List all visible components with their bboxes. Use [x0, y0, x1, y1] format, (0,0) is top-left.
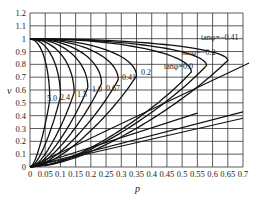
- curve-label-tan-neg-0-41: tanφ=−0.41: [201, 33, 238, 42]
- y-tick-label: 0.7: [15, 72, 26, 82]
- curve-label-tan-neg-0-2: tanφ=−0.2: [182, 48, 215, 57]
- y-tick-label: 1.1: [15, 21, 26, 31]
- x-tick-label: 0.45: [159, 169, 174, 179]
- x-tick-label: 0.7: [238, 169, 249, 179]
- x-tick-label: 0.1: [55, 169, 66, 179]
- curve-label-0-2: 0.2: [141, 68, 151, 77]
- x-tick-label: 0.25: [99, 169, 114, 179]
- pv-curve-chart: 00.10.20.30.40.50.60.70.80.911.11.2 00.0…: [0, 0, 258, 197]
- x-axis-label: p: [134, 183, 140, 194]
- y-tick-label: 0.5: [15, 98, 26, 108]
- y-tick-label: 0.2: [15, 136, 26, 146]
- y-tick-label: 0.4: [15, 111, 26, 121]
- x-tick-label: 0.15: [68, 169, 83, 179]
- x-tick-label: 0.3: [116, 169, 127, 179]
- locus-line: [30, 63, 249, 167]
- x-axis-ticks: 00.050.10.150.20.250.30.350.40.450.50.55…: [28, 169, 248, 179]
- y-tick-label: 1: [22, 34, 26, 44]
- curve-label-1-0: 1.0: [92, 85, 102, 94]
- curve-label-0-41: 0.41: [122, 73, 136, 82]
- y-tick-label: 1.2: [15, 8, 26, 18]
- y-axis-label: v: [7, 85, 12, 96]
- y-tick-label: 0.9: [15, 47, 26, 57]
- y-tick-label: 0.8: [15, 59, 26, 69]
- x-tick-label: 0.55: [190, 169, 205, 179]
- y-tick-label: 0.6: [15, 85, 26, 95]
- x-tick-label: 0.4: [146, 169, 157, 179]
- y-tick-label: 0.3: [15, 124, 26, 134]
- max-point-locus-lines: [30, 63, 249, 167]
- y-tick-label: 0: [22, 162, 26, 172]
- x-tick-label: 0.2: [86, 169, 97, 179]
- x-tick-label: 0.5: [177, 169, 188, 179]
- x-tick-label: 0: [28, 169, 32, 179]
- curve-label-tan-0-0: tanφ=0.0: [164, 62, 193, 71]
- locus-line: [30, 113, 197, 167]
- curve-label-2-4: 2.4: [60, 93, 70, 102]
- curve-label-5-0: 5.0: [47, 94, 57, 103]
- y-axis-ticks: 00.10.20.30.40.50.60.70.80.911.11.2: [15, 8, 26, 172]
- x-tick-label: 0.6: [207, 169, 218, 179]
- y-tick-label: 0.1: [15, 149, 26, 159]
- x-tick-label: 0.65: [220, 169, 235, 179]
- curve-label-1-5: 1.5: [77, 90, 87, 99]
- x-tick-label: 0.35: [129, 169, 144, 179]
- curve-label-0-67: 0.67: [106, 84, 120, 93]
- x-tick-label: 0.05: [38, 169, 53, 179]
